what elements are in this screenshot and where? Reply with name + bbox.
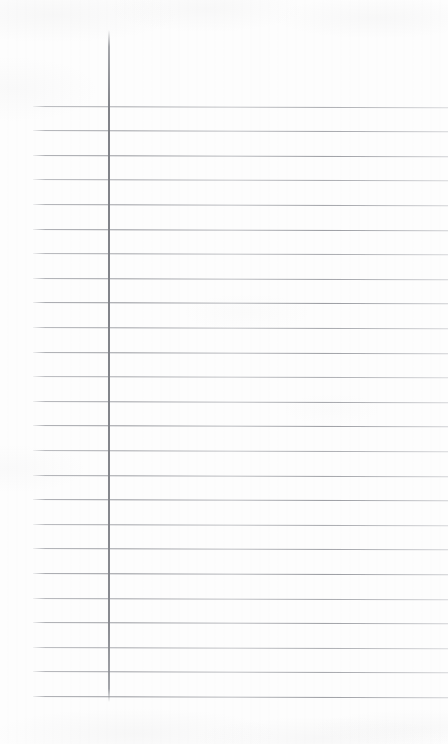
left-margin-area[interactable]	[0, 32, 108, 700]
writing-area[interactable]	[110, 32, 448, 700]
notebook-page	[0, 0, 448, 744]
